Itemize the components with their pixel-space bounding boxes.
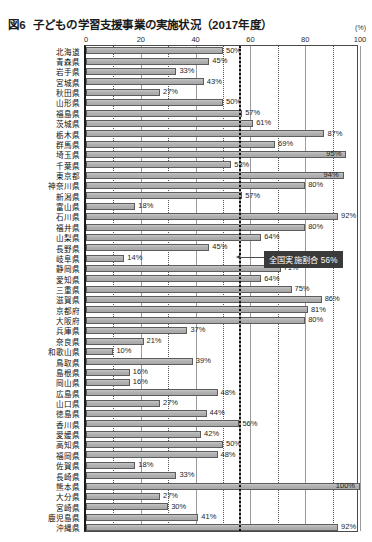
bar-row: 18%: [86, 460, 357, 470]
bar-row: 56%: [86, 419, 357, 429]
category-label-山形県: 山形県: [2, 97, 80, 108]
bar-山口県: [86, 400, 160, 407]
bar-value-label: 75%: [295, 284, 310, 293]
bar-島根県: [86, 369, 130, 376]
bar-row: 95%: [86, 150, 357, 160]
category-label-大阪府: 大阪府: [2, 315, 80, 326]
bar-row: 64%: [86, 274, 357, 284]
bar-福井県: [86, 224, 305, 231]
category-label-福島県: 福島県: [2, 108, 80, 119]
category-label-鳥取県: 鳥取県: [2, 357, 80, 368]
bar-value-label: 10%: [116, 346, 131, 355]
bar-宮城県: [86, 78, 204, 85]
bar-広島県: [86, 389, 218, 396]
bar-岩手県: [86, 68, 176, 75]
bar-value-label: 80%: [308, 180, 323, 189]
category-label-福井県: 福井県: [2, 222, 80, 233]
bar-大分県: [86, 493, 160, 500]
bar-value-label: 16%: [133, 377, 148, 386]
category-label-奈良県: 奈良県: [2, 336, 80, 347]
bar-京都府: [86, 306, 308, 313]
bar-row: 48%: [86, 388, 357, 398]
category-label-香川県: 香川県: [2, 419, 80, 430]
bar-row: 44%: [86, 409, 357, 419]
bar-row: 27%: [86, 398, 357, 408]
category-label-山口県: 山口県: [2, 398, 80, 409]
national-average-line: [239, 46, 241, 531]
category-label-兵庫県: 兵庫県: [2, 325, 80, 336]
bar-value-label: 27%: [163, 87, 178, 96]
bar-row: 18%: [86, 201, 357, 211]
bar-香川県: [86, 420, 239, 427]
category-label-愛媛県: 愛媛県: [2, 429, 80, 440]
bar-北海道: [86, 47, 223, 54]
bar-和歌山県: [86, 348, 113, 355]
bar-row: 75%: [86, 284, 357, 294]
bar-row: 33%: [86, 471, 357, 481]
bar-row: 30%: [86, 502, 357, 512]
bar-row: 21%: [86, 336, 357, 346]
bar-長崎県: [86, 472, 176, 479]
bar-row: 69%: [86, 139, 357, 149]
category-label-福岡県: 福岡県: [2, 450, 80, 461]
bar-岐阜県: [86, 255, 124, 262]
bar-熊本県: [86, 483, 360, 490]
bar-row: 37%: [86, 326, 357, 336]
x-tick-label-40: 40: [191, 35, 199, 44]
category-label-佐賀県: 佐賀県: [2, 460, 80, 471]
bar-row: 43%: [86, 77, 357, 87]
bar-岡山県: [86, 379, 130, 386]
category-label-京都府: 京都府: [2, 305, 80, 316]
bar-value-label: 39%: [196, 356, 211, 365]
bar-value-label: 18%: [138, 460, 153, 469]
bar-静岡県: [86, 265, 281, 272]
bar-row: 87%: [86, 129, 357, 139]
bar-value-label: 95%: [326, 149, 341, 158]
bar-富山県: [86, 203, 135, 210]
bar-value-label: 100%: [336, 481, 355, 490]
bar-value-label: 92%: [341, 211, 356, 220]
bar-value-label: 45%: [212, 242, 227, 251]
bar-value-label: 80%: [308, 222, 323, 231]
bar-value-label: 53%: [234, 160, 249, 169]
bar-愛媛県: [86, 431, 201, 438]
bar-row: 16%: [86, 367, 357, 377]
bar-row: 45%: [86, 56, 357, 66]
bar-沖縄県: [86, 524, 338, 531]
bar-佐賀県: [86, 462, 135, 469]
category-label-静岡県: 静岡県: [2, 263, 80, 274]
plot-area: 02040608010050%45%33%43%27%50%57%61%87%6…: [84, 45, 358, 532]
category-label-長崎県: 長崎県: [2, 471, 80, 482]
bar-value-label: 42%: [204, 429, 219, 438]
category-label-青森県: 青森県: [2, 56, 80, 67]
bar-value-label: 30%: [171, 502, 186, 511]
category-label-北海道: 北海道: [2, 46, 80, 57]
bar-value-label: 45%: [212, 56, 227, 65]
bar-value-label: 86%: [325, 294, 340, 303]
bar-東京都: [86, 172, 344, 179]
bar-value-label: 64%: [264, 232, 279, 241]
bar-row: 50%: [86, 440, 357, 450]
bar-value-label: 57%: [245, 191, 260, 200]
category-label-沖縄県: 沖縄県: [2, 522, 80, 533]
category-label-東京都: 東京都: [2, 170, 80, 181]
category-label-石川県: 石川県: [2, 211, 80, 222]
bar-row: 53%: [86, 160, 357, 170]
category-label-栃木県: 栃木県: [2, 129, 80, 140]
bar-山梨県: [86, 234, 261, 241]
bar-row: 57%: [86, 108, 357, 118]
bar-row: 50%: [86, 98, 357, 108]
bar-value-label: 14%: [127, 253, 142, 262]
category-label-和歌山県: 和歌山県: [2, 346, 80, 357]
category-label-大分県: 大分県: [2, 491, 80, 502]
bar-愛知県: [86, 275, 261, 282]
bar-row: 41%: [86, 512, 357, 522]
bar-徳島県: [86, 410, 207, 417]
bar-row: 80%: [86, 181, 357, 191]
category-label-高知県: 高知県: [2, 439, 80, 450]
bar-row: 80%: [86, 315, 357, 325]
bar-row: 94%: [86, 170, 357, 180]
category-label-群馬県: 群馬県: [2, 139, 80, 150]
bar-value-label: 27%: [163, 398, 178, 407]
category-label-徳島県: 徳島県: [2, 408, 80, 419]
